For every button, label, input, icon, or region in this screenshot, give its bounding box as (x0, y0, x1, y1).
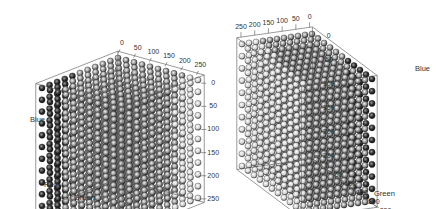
svg-text:50: 50 (335, 171, 343, 178)
svg-text:0: 0 (325, 162, 329, 169)
svg-text:100: 100 (148, 48, 160, 55)
svg-text:0: 0 (327, 32, 331, 39)
svg-text:250: 250 (380, 207, 392, 209)
svg-text:200: 200 (207, 172, 219, 179)
svg-text:250: 250 (235, 23, 247, 30)
left-plot-canvas: 0501001502002502502001501005000501001502… (0, 0, 220, 209)
svg-text:150: 150 (263, 19, 275, 26)
svg-text:50: 50 (292, 15, 300, 22)
svg-text:200: 200 (179, 57, 191, 64)
left-sphere-cloud (39, 55, 201, 209)
svg-text:150: 150 (163, 52, 175, 59)
right-plot-canvas: 0501001502002502502001501005000501001502… (220, 0, 440, 209)
right-blue-axis-label: Blue (415, 64, 430, 73)
svg-text:200: 200 (368, 198, 380, 205)
svg-text:200: 200 (323, 128, 335, 135)
svg-text:250: 250 (195, 61, 207, 68)
svg-text:100: 100 (323, 80, 335, 87)
svg-text:100: 100 (344, 180, 356, 187)
svg-text:150: 150 (356, 189, 368, 196)
svg-text:0: 0 (308, 13, 312, 20)
svg-text:0: 0 (211, 79, 215, 86)
svg-text:0: 0 (120, 39, 124, 46)
left-green-axis-label: Green (74, 193, 95, 202)
svg-text:100: 100 (207, 125, 219, 132)
svg-text:100: 100 (276, 17, 288, 24)
svg-text:250: 250 (207, 195, 219, 202)
svg-text:150: 150 (207, 149, 219, 156)
svg-text:50: 50 (134, 44, 142, 51)
svg-text:50: 50 (325, 56, 333, 63)
left-blue-axis-label: Blue (30, 115, 45, 124)
svg-text:200: 200 (249, 21, 261, 28)
svg-text:150: 150 (323, 104, 335, 111)
left-red-axis-label: Red (44, 180, 58, 189)
svg-text:250: 250 (323, 152, 335, 159)
left-3d-scatter-plot: 0501001502002502502001501005000501001502… (0, 0, 220, 209)
right-green-axis-label: Green (374, 189, 395, 198)
svg-text:50: 50 (209, 102, 217, 109)
right-3d-scatter-plot: 0501001502002502502001501005000501001502… (220, 0, 440, 209)
